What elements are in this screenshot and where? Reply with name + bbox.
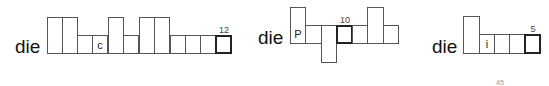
letter-box — [321, 25, 337, 63]
letter-box: P — [290, 7, 306, 44]
letter-box — [47, 17, 63, 54]
prefix-word: die — [432, 37, 457, 56]
given-letter: P — [291, 28, 305, 40]
letter-box — [383, 25, 399, 44]
letter-box — [62, 17, 78, 54]
answer-box[interactable] — [215, 35, 232, 54]
page-number: 45 — [496, 79, 504, 86]
letter-box — [200, 35, 216, 54]
letter-box: c — [92, 35, 108, 54]
letter-box — [352, 25, 368, 44]
letter-box — [305, 25, 322, 44]
answer-box[interactable] — [336, 25, 353, 44]
answer-box[interactable] — [524, 34, 541, 54]
letter-box — [123, 35, 139, 54]
letter-box — [494, 34, 510, 54]
letter-box — [139, 17, 155, 54]
letter-box — [367, 7, 384, 44]
given-letter: c — [93, 39, 107, 51]
letter-box — [463, 16, 480, 54]
letter-box — [185, 35, 201, 54]
letter-box — [170, 35, 186, 54]
letter-box: i — [479, 34, 495, 54]
prefix-word: die — [258, 28, 283, 47]
prefix-word: die — [15, 37, 40, 56]
letter-box — [108, 17, 124, 54]
answer-number: 5 — [525, 24, 541, 34]
answer-number: 12 — [216, 25, 232, 35]
letter-box — [154, 17, 170, 54]
answer-number: 10 — [337, 15, 353, 25]
given-letter: i — [480, 38, 494, 50]
letter-box — [509, 34, 525, 54]
letter-box — [77, 35, 93, 54]
